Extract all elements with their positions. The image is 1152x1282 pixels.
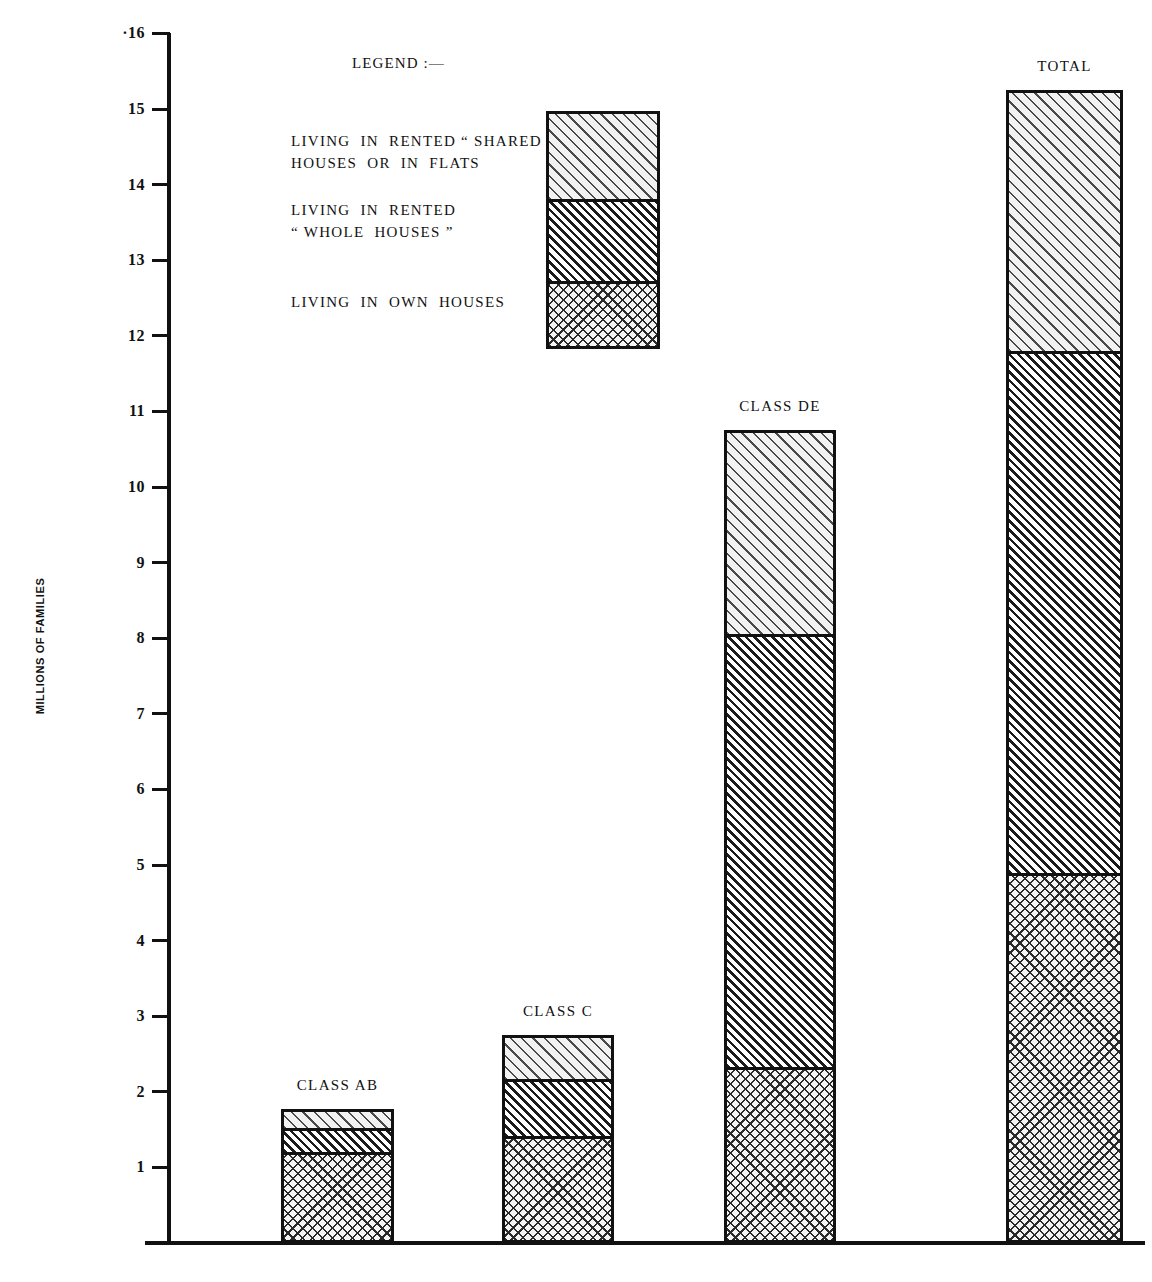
y-axis-tick-label: 11 xyxy=(129,402,145,420)
bar-segment-rented[interactable] xyxy=(281,1128,394,1152)
y-axis-tick xyxy=(152,1090,170,1093)
y-axis-tick-label: 3 xyxy=(137,1007,146,1025)
legend-label-shared: LIVING IN RENTED “ SHARED ” HOUSES OR IN… xyxy=(291,131,555,175)
y-axis-tick xyxy=(152,183,170,186)
y-axis-tick-label: ·16 xyxy=(122,24,145,42)
y-axis-tick xyxy=(152,1166,170,1169)
bar-label-class-ab: CLASS AB xyxy=(297,1077,379,1094)
legend-swatch-rented xyxy=(546,199,660,281)
bar-segment-own[interactable] xyxy=(1006,873,1123,1243)
y-axis-tick-label: 2 xyxy=(137,1083,146,1101)
y-axis-tick xyxy=(152,561,170,564)
y-axis-tick-label: 12 xyxy=(128,327,145,345)
legend-label-own-line1: LIVING IN OWN HOUSES xyxy=(291,294,505,310)
bar-segment-shared[interactable] xyxy=(281,1109,394,1128)
legend-label-rented: LIVING IN RENTED “ WHOLE HOUSES ” xyxy=(291,200,456,244)
bar-segment-own[interactable] xyxy=(502,1136,614,1243)
bar-label-total: TOTAL xyxy=(1037,58,1092,75)
bar-segment-own[interactable] xyxy=(281,1152,394,1243)
y-axis-tick xyxy=(152,939,170,942)
y-axis-tick-label: 14 xyxy=(128,176,145,194)
legend-label-shared-line2: HOUSES OR IN FLATS xyxy=(291,155,480,171)
y-axis-tick xyxy=(152,637,170,640)
y-axis-tick-label: 8 xyxy=(137,629,146,647)
bar-segment-rented[interactable] xyxy=(502,1079,614,1136)
y-axis-tick xyxy=(152,712,170,715)
bar-label-class-c: CLASS C xyxy=(523,1003,593,1020)
y-axis-tick-label: 13 xyxy=(128,251,145,269)
bar-segment-shared[interactable] xyxy=(502,1035,614,1079)
y-axis-tick-label: 15 xyxy=(128,100,145,118)
y-axis-tick xyxy=(152,486,170,489)
bar-segment-rented[interactable] xyxy=(724,634,836,1067)
bar-segment-rented[interactable] xyxy=(1006,351,1123,873)
y-axis-tick xyxy=(152,410,170,413)
y-axis-tick-label: 7 xyxy=(137,705,146,723)
y-axis-tick xyxy=(152,108,170,111)
y-axis-tick-label: 4 xyxy=(137,932,146,950)
legend-label-rented-line1: LIVING IN RENTED xyxy=(291,202,456,218)
y-axis-tick-label: 5 xyxy=(137,856,146,874)
y-axis-tick-label: 6 xyxy=(137,780,146,798)
y-axis-tick xyxy=(152,1015,170,1018)
y-axis-tick xyxy=(152,334,170,337)
y-axis-tick xyxy=(152,259,170,262)
y-axis-tick xyxy=(152,864,170,867)
legend-label-rented-line2: “ WHOLE HOUSES ” xyxy=(291,224,454,240)
y-axis-title: MILLIONS OF FAMILIES xyxy=(34,546,46,746)
y-axis-tick-label: 9 xyxy=(137,554,146,572)
y-axis-tick-label: 10 xyxy=(128,478,145,496)
chart-canvas: MILLIONS OF FAMILIES ·161514131211109876… xyxy=(0,0,1152,1282)
bar-label-class-de: CLASS DE xyxy=(739,398,821,415)
legend-swatch-own xyxy=(546,281,660,349)
legend-swatch-shared xyxy=(546,111,660,199)
bar-segment-shared[interactable] xyxy=(1006,90,1123,351)
legend-label-shared-line1: LIVING IN RENTED “ SHARED ” xyxy=(291,133,555,149)
y-axis-tick xyxy=(152,32,170,35)
bar-segment-shared[interactable] xyxy=(724,430,836,634)
y-axis-tick-label: 1 xyxy=(137,1158,146,1176)
legend-label-own: LIVING IN OWN HOUSES xyxy=(291,292,505,314)
bar-segment-own[interactable] xyxy=(724,1067,836,1243)
y-axis-tick xyxy=(152,788,170,791)
legend-title: LEGEND :— xyxy=(352,55,445,72)
legend-swatch-bar xyxy=(546,111,660,349)
